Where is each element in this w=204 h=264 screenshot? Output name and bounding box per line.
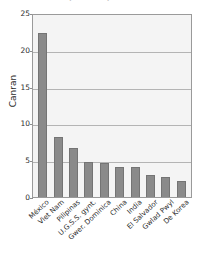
bar[interactable]: [131, 167, 140, 197]
bar[interactable]: [161, 177, 170, 197]
chart-page: Cyfran o'r cyfanswm Canran 0510152025 Mé…: [0, 0, 204, 264]
bar[interactable]: [146, 175, 155, 197]
bar[interactable]: [84, 162, 93, 197]
bar[interactable]: [177, 181, 186, 197]
bar[interactable]: [100, 163, 109, 197]
bar[interactable]: [115, 167, 124, 197]
chart-title: Cyfran o'r cyfanswm: [0, 0, 204, 1]
bar[interactable]: [69, 148, 78, 197]
y-tick-label: 5: [14, 157, 30, 165]
y-tick-label: 10: [14, 120, 30, 128]
x-axis-labels: MéxicoViet NamPilipinasU.G.S.S. gynt.Gwe…: [32, 199, 192, 261]
bar-series: [33, 15, 191, 197]
plot-area: [32, 14, 192, 198]
y-tick-label: 0: [14, 194, 30, 202]
bar[interactable]: [54, 137, 63, 197]
y-tick-label: 15: [14, 84, 30, 92]
y-tick-label: 25: [14, 10, 30, 18]
bar[interactable]: [38, 33, 47, 197]
y-tick-label: 20: [14, 47, 30, 55]
